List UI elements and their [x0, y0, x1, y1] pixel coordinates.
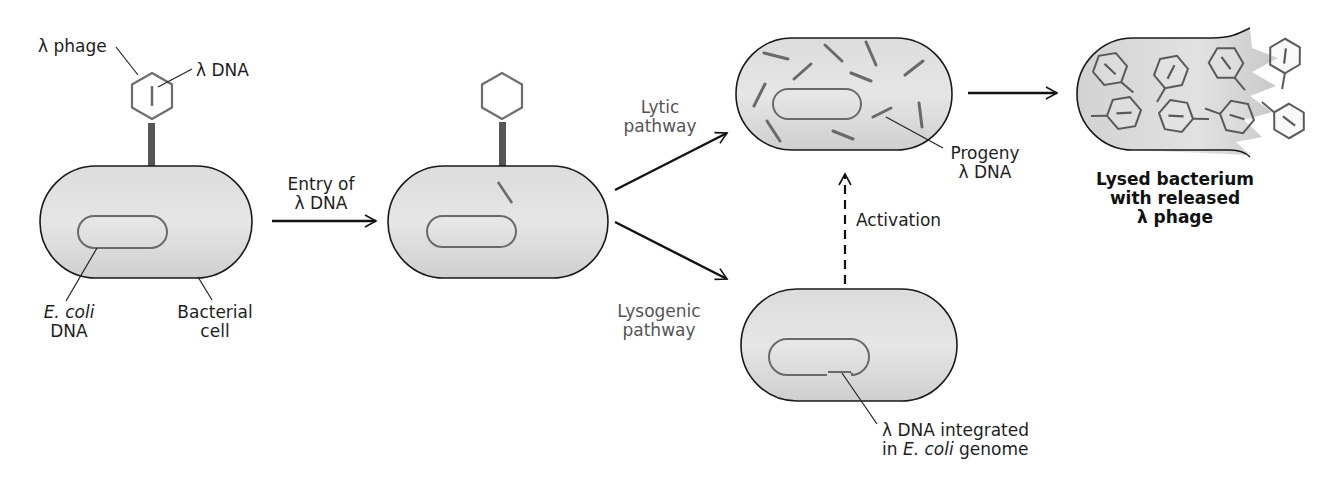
- label-ecoli-dna-suffix: DNA: [50, 321, 87, 341]
- label-integrated-line1: λ DNA integrated: [882, 420, 1029, 440]
- label-entry-of-lambda-dna: Entry of λ DNA: [276, 175, 366, 213]
- label-progeny-lambda-dna: Progeny λ DNA: [944, 144, 1026, 182]
- label-entry-line2: λ DNA: [295, 193, 348, 213]
- label-lysed-line1: Lysed bacterium: [1096, 169, 1254, 189]
- phage-tail: [148, 123, 155, 166]
- phage-tail: [499, 122, 506, 166]
- label-lysed-line3: λ phage: [1137, 207, 1213, 227]
- label-lambda-dna: λ DNA: [196, 61, 249, 80]
- leader-lambda-phage: [116, 47, 138, 75]
- label-ecoli-italic: E. coli: [44, 302, 95, 322]
- lysogenic-arrow: [615, 222, 727, 279]
- label-bacterial-line1: Bacterial: [177, 302, 252, 322]
- label-progeny-line2: λ DNA: [959, 162, 1012, 182]
- leader-lambda-dna: [158, 69, 192, 87]
- lytic-arrow: [615, 133, 727, 190]
- label-lysed-bacterium: Lysed bacterium with released λ phage: [1090, 170, 1260, 227]
- phage-head-icon: [132, 73, 172, 119]
- label-integrated-suffix: genome: [954, 439, 1029, 459]
- label-entry-line1: Entry of: [287, 174, 354, 194]
- label-lytic-line2: pathway: [623, 116, 696, 136]
- label-lytic-pathway: Lytic pathway: [615, 98, 705, 136]
- lysed-cell-membrane: [1077, 28, 1278, 155]
- label-bacterial-cell: Bacterial cell: [170, 303, 260, 341]
- stage-lysogenic: [741, 289, 957, 424]
- label-lytic-line1: Lytic: [641, 97, 680, 117]
- label-progeny-line1: Progeny: [950, 143, 1019, 163]
- label-integrated-prefix: in: [882, 439, 903, 459]
- label-lambda-dna-integrated: λ DNA integrated in E. coli genome: [882, 421, 1029, 459]
- stage-lysis: [1077, 28, 1311, 157]
- label-ecoli-dna: E. coli DNA: [34, 303, 104, 341]
- stage-infection: [40, 47, 252, 301]
- label-lysogenic-line1: Lysogenic: [617, 301, 700, 321]
- bacterial-cell: [40, 166, 252, 278]
- stage-entry: [388, 73, 608, 278]
- phage-icon: [1259, 87, 1311, 143]
- label-integrated-italic: E. coli: [903, 439, 954, 459]
- label-lysed-line2: with released: [1110, 188, 1240, 208]
- label-lambda-phage: λ phage: [38, 37, 107, 56]
- stage-lytic: [736, 38, 952, 150]
- label-activation: Activation: [856, 211, 941, 230]
- label-lysogenic-line2: pathway: [622, 320, 695, 340]
- leader-bacterial-cell: [198, 277, 212, 300]
- phage-head-icon: [482, 73, 522, 119]
- label-lysogenic-pathway: Lysogenic pathway: [604, 302, 714, 340]
- label-bacterial-line2: cell: [200, 321, 229, 341]
